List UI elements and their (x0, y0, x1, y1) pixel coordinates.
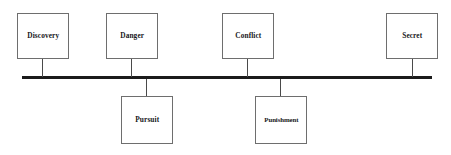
node-label-pursuit: Pursuit (135, 116, 159, 124)
node-label-conflict: Conflict (235, 32, 261, 40)
node-label-secret: Secret (402, 32, 422, 40)
node-label-discovery: Discovery (27, 32, 59, 40)
node-box-conflict[interactable]: Conflict (222, 13, 274, 59)
diagram-canvas: DiscoveryDangerPursuitConflictPunishment… (0, 0, 451, 155)
node-box-pursuit[interactable]: Pursuit (121, 96, 173, 144)
connector-discovery (42, 59, 43, 77)
connector-pursuit (146, 79, 147, 96)
connector-conflict (247, 59, 248, 77)
node-box-secret[interactable]: Secret (386, 13, 438, 59)
node-label-punishment: Punishment (264, 117, 298, 124)
node-box-discovery[interactable]: Discovery (17, 13, 69, 59)
node-box-danger[interactable]: Danger (106, 13, 158, 59)
connector-danger (131, 59, 132, 77)
horizontal-spine (22, 76, 432, 79)
node-box-punishment[interactable]: Punishment (255, 96, 307, 144)
connector-punishment (280, 79, 281, 96)
connector-secret (412, 59, 413, 77)
node-label-danger: Danger (120, 32, 144, 40)
